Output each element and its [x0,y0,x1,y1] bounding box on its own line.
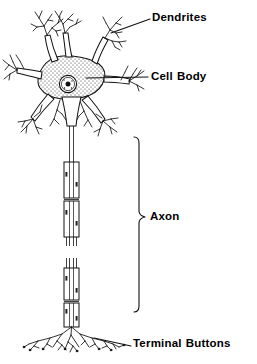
label-terminal-word2: Buttons [186,337,231,349]
label-cell-body-word2: Body [177,70,207,82]
label-cell-body-word1: Cell [151,70,173,82]
axon-lower-segment [64,258,79,327]
label-axon: Axon [150,211,180,223]
neuron-illustration [0,0,257,364]
nucleus [59,75,76,92]
neuron-diagram-figure: Dendrites CellBody Axon TerminalButtons [0,0,257,364]
label-terminal-word1: Terminal [133,337,182,349]
label-axon-text: Axon [150,210,180,222]
nucleolus [66,82,71,87]
label-terminal-buttons: TerminalButtons [133,338,231,350]
label-dendrites-text: Dendrites [152,11,207,23]
label-cell-body: CellBody [151,71,206,83]
figure-background [0,0,257,364]
label-dendrites: Dendrites [152,12,207,24]
